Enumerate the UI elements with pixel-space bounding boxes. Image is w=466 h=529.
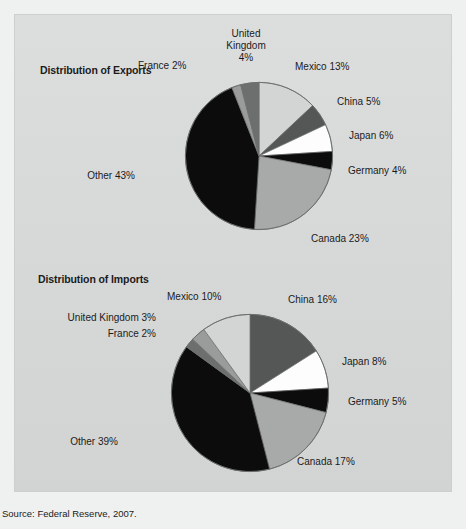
pie-label-japan-exports: Japan 6% [349,130,393,142]
pie-label-mexico-exports: Mexico 13% [295,61,349,73]
pie-chart-imports [170,313,330,473]
pie-chart-exports [184,81,334,231]
pie-label-mexico-imports: Mexico 10% [167,291,221,303]
pie-label-france-imports: France 2% [68,328,156,340]
source-note: Source: Federal Reserve, 2007. [2,508,137,519]
pie-label-united-kingdom-exports: United Kingdom 4% [212,28,280,64]
pie-imports-svg [170,313,330,473]
chart-title-exports: Distribution of Exports [40,64,151,76]
pie-label-other-exports: Other 43% [55,170,135,182]
pie-label-germany-imports: Germany 5% [348,396,406,408]
pie-label-canada-imports: Canada 17% [297,456,355,468]
pie-exports-svg [184,81,334,231]
pie-label-china-exports: China 5% [337,96,380,108]
label-text-line1: United [232,28,261,39]
pie-label-canada-exports: Canada 23% [311,233,369,245]
pie-label-japan-imports: Japan 8% [342,356,386,368]
pie-label-france-exports: France 2% [138,60,186,72]
figure: Distribution of Exports United Kingdom 4… [0,0,466,529]
pie-label-china-imports: China 16% [288,294,337,306]
label-text-line2: Kingdom [226,40,265,51]
pie-label-germany-exports: Germany 4% [348,165,406,177]
label-text-line3: 4% [239,52,253,63]
chart-title-imports: Distribution of Imports [38,273,149,285]
pie-label-united-kingdom-imports: United Kingdom 3% [48,312,156,324]
pie-label-other-imports: Other 39% [38,436,118,448]
